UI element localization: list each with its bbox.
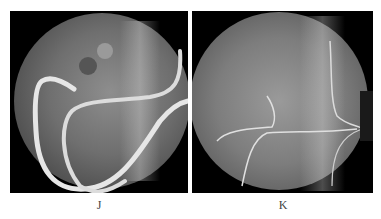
endoscope-loop-graphic xyxy=(10,11,188,193)
panel-label-j: J xyxy=(84,198,114,213)
panel-label-k: K xyxy=(268,198,298,213)
fluoroscopy-image-k xyxy=(192,11,373,193)
guidewire-graphic xyxy=(192,11,373,193)
fluoroscopy-image-j xyxy=(10,11,188,193)
